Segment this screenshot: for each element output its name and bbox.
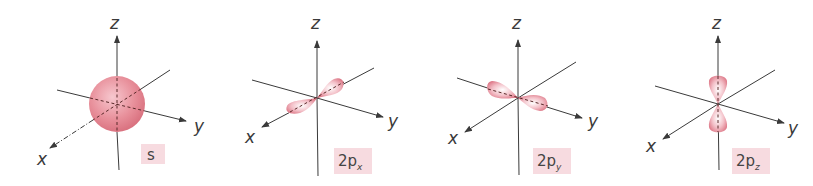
- y-axis-back: [57, 90, 90, 98]
- x-axis: [50, 120, 93, 148]
- orbital-label-s: s: [147, 146, 155, 164]
- x-axis-back: [718, 70, 775, 104]
- y-axis-back: [252, 80, 317, 98]
- z-axis-label: z: [310, 13, 321, 33]
- z-axis-lower: [518, 98, 519, 175]
- panel-2px-orbital: z y x 2px: [244, 13, 399, 176]
- y-axis-label: y: [387, 111, 399, 131]
- x-axis-back: [141, 70, 170, 89]
- y-axis: [145, 111, 186, 121]
- 2py-lobe-front: [518, 95, 547, 111]
- y-axis-back: [655, 86, 718, 104]
- panel-s-orbital: z y x s: [36, 13, 205, 170]
- z-axis-label: z: [511, 13, 522, 33]
- x-axis-label: x: [447, 128, 459, 148]
- y-axis-label: y: [787, 118, 799, 138]
- x-axis-back: [518, 62, 576, 98]
- y-axis-label: y: [587, 111, 599, 131]
- x-axis-label: x: [244, 127, 256, 147]
- z-axis-label: z: [109, 13, 120, 33]
- y-axis-label: y: [193, 116, 205, 136]
- z-axis-label: z: [711, 13, 722, 33]
- y-axis: [317, 98, 383, 117]
- x-axis-label: x: [36, 149, 48, 169]
- x-axis: [465, 98, 518, 132]
- panel-2pz-orbital: z y x 2pz: [645, 13, 799, 174]
- panel-2py-orbital: z y x 2py: [447, 13, 599, 175]
- z-axis-lower: [317, 98, 318, 176]
- 2py-lobe-back: [487, 81, 518, 99]
- x-axis-label: x: [645, 136, 657, 156]
- orbital-diagram: z y x s z y x 2px: [0, 0, 813, 186]
- z-axis-lower: [117, 132, 119, 170]
- y-axis: [718, 104, 784, 123]
